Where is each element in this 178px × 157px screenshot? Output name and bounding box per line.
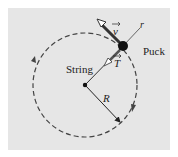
radial-axis-label: r (140, 20, 144, 30)
puck (118, 41, 128, 51)
puck-label: Puck (143, 46, 165, 57)
velocity-label: v (113, 26, 118, 37)
path-direction-arrow-left (31, 56, 36, 63)
radius-label: R (103, 93, 110, 104)
velocity-vector (102, 25, 122, 45)
center-pivot (83, 83, 87, 87)
path-direction-arrow-right (131, 104, 136, 112)
circular-motion-diagram (0, 0, 178, 157)
tension-label: T (114, 58, 120, 69)
string-label: String (66, 64, 93, 75)
